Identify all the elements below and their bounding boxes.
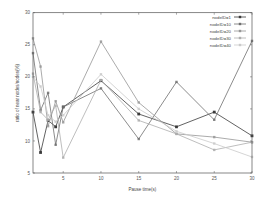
data-point (213, 149, 215, 151)
data-point (213, 142, 215, 144)
data-point (100, 73, 102, 75)
data-point (39, 151, 42, 154)
data-point (213, 136, 215, 138)
data-point (138, 119, 140, 121)
x-tick-label: 10 (98, 176, 104, 181)
y-tick-label: 10 (25, 139, 31, 144)
x-tick-label: 20 (174, 176, 180, 181)
data-point (137, 113, 140, 116)
data-point (54, 104, 56, 106)
y-tick-label: 25 (25, 42, 31, 47)
x-tick-label: 30 (249, 176, 255, 181)
legend-label: nodeID=20 (210, 29, 232, 34)
data-point (54, 125, 57, 128)
y-tick-label: 20 (25, 74, 31, 79)
data-point (47, 92, 49, 94)
y-tick-label: 30 (25, 10, 31, 15)
legend-label: nodeID=40 (210, 43, 232, 48)
data-point (54, 144, 56, 146)
data-point (100, 40, 102, 42)
legend-swatch-marker (239, 16, 241, 18)
x-tick-label: 5 (62, 176, 65, 181)
data-point (138, 101, 140, 103)
series-line (33, 38, 252, 142)
data-point (62, 114, 64, 116)
data-point (175, 133, 177, 135)
data-point (62, 121, 64, 123)
data-point (138, 138, 140, 140)
data-point (47, 125, 49, 127)
data-point (62, 106, 64, 108)
data-point (100, 87, 102, 89)
legend-swatch-marker (239, 44, 241, 46)
data-point (47, 119, 49, 121)
y-tick-label: 5 (27, 171, 30, 176)
series-line (33, 41, 252, 145)
line-chart: 51015202530 51015202530 Pause time(s) ra… (0, 0, 267, 202)
series-nodeid-20 (32, 37, 253, 143)
y-axis-label: ratio of near nodes/nodes(%) (15, 63, 20, 122)
data-point (175, 81, 177, 83)
series-nodeid-10 (32, 40, 253, 146)
data-point (39, 111, 41, 113)
series-nodeid-1 (32, 79, 254, 154)
plot-lines (32, 37, 254, 159)
legend: nodeID=1nodeID=10nodeID=20nodeID=30nodeI… (210, 15, 246, 48)
data-point (62, 156, 64, 158)
legend-label: nodeID=10 (210, 22, 232, 27)
legend-label: nodeID=30 (210, 36, 232, 41)
data-point (54, 100, 56, 102)
x-axis-label: Pause time(s) (129, 187, 157, 192)
data-point (213, 119, 215, 121)
data-point (175, 125, 178, 128)
legend-swatch-marker (239, 23, 241, 25)
legend-label: nodeID=1 (212, 15, 231, 20)
legend-swatch-marker (239, 37, 241, 39)
data-point (47, 114, 49, 116)
x-tick-label: 25 (212, 176, 218, 181)
data-point (175, 130, 177, 132)
y-tick-label: 15 (25, 106, 31, 111)
legend-swatch-marker (239, 30, 241, 32)
data-point (39, 85, 41, 87)
data-point (100, 79, 102, 81)
x-tick-label: 15 (136, 176, 142, 181)
data-point (39, 65, 41, 67)
data-point (138, 108, 140, 110)
data-point (54, 121, 56, 123)
data-point (213, 111, 216, 114)
